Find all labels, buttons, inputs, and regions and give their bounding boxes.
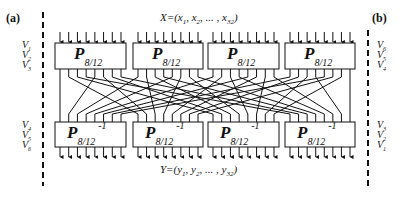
input-sequence-label: X=(x1, x2, ... , x32) [160, 11, 238, 26]
left-bottom-v-labels: V4 V5 V6 [22, 120, 31, 150]
right-top-v-labels: V6 V5 V4 [377, 40, 386, 70]
output-arrows [60, 147, 350, 157]
top-box-1-label: P8/12 [74, 44, 102, 65]
panel-label-a: (a) [6, 11, 20, 26]
bottom-box-2-label: P8/12-1 [145, 122, 185, 144]
bottom-box-3-label: P8/12-1 [220, 122, 260, 144]
top-box-3-label: P8/12 [227, 44, 255, 65]
right-bottom-v-labels: V3 V2 V1 [377, 120, 386, 150]
left-top-v-labels: V1 V2 V3 [22, 40, 31, 70]
panel-label-b: (b) [372, 11, 387, 26]
top-box-4-label: P8/12 [304, 44, 332, 65]
bottom-box-4-label: P8/12-1 [297, 122, 337, 144]
input-arrows [60, 32, 350, 42]
top-box-2-label: P8/12 [152, 44, 180, 65]
output-sequence-label: Y=(y1, y2, ... , y32) [160, 163, 237, 178]
crossing-wires [60, 69, 350, 122]
bottom-box-1-label: P8/12-1 [67, 122, 107, 144]
